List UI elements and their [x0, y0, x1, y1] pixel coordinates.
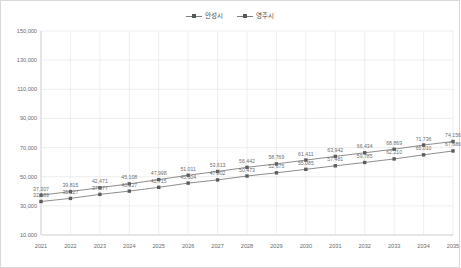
data-point-label: 37,877 — [92, 185, 108, 191]
series-marker — [245, 174, 248, 177]
data-point-label: 55,085 — [298, 160, 314, 166]
data-point-label: 45,604 — [180, 174, 196, 180]
data-point-label: 47,998 — [151, 170, 167, 176]
data-point-label: 61,411 — [298, 151, 314, 157]
series-marker — [392, 157, 395, 160]
legend-label: 안성시 — [205, 13, 223, 20]
data-point-label: 51,011 — [180, 166, 196, 172]
series-marker — [157, 186, 160, 189]
data-point-label: 67,686 — [445, 141, 461, 147]
series-marker — [363, 161, 366, 164]
y-axis-tick-label: 10,000 — [20, 232, 37, 238]
data-point-label: 74,156 — [445, 132, 461, 138]
series-marker — [69, 197, 72, 200]
data-point-label: 40,127 — [121, 182, 137, 188]
data-point-label: 65,010 — [416, 145, 432, 151]
x-axis-tick-label: 2034 — [417, 243, 429, 249]
data-point-label: 63,942 — [327, 147, 343, 153]
data-point-label: 58,769 — [268, 154, 284, 160]
x-axis-tick-label: 2033 — [388, 243, 400, 249]
data-point-label: 56,442 — [239, 158, 255, 164]
series-marker — [304, 168, 307, 171]
x-axis-tick-label: 2032 — [358, 243, 370, 249]
x-axis-tick-label: 2025 — [152, 243, 164, 249]
y-axis-tick-label: 50,000 — [20, 174, 37, 180]
series-marker — [98, 193, 101, 196]
x-axis-tick-label: 2031 — [329, 243, 341, 249]
legend-marker-icon — [237, 13, 253, 20]
y-axis-tick-label: 30,000 — [20, 203, 37, 209]
y-axis-ticks: 150,000130,000110,00090,00070,00050,0003… — [17, 28, 37, 238]
data-point-label: 45,108 — [121, 174, 137, 180]
y-axis-tick-label: 70,000 — [20, 145, 37, 151]
data-point-label: 32,983 — [33, 192, 49, 198]
data-point-label: 68,869 — [386, 140, 402, 146]
x-axis-tick-label: 2024 — [123, 243, 135, 249]
series-marker — [216, 178, 219, 181]
data-point-label: 35,127 — [62, 189, 78, 195]
series-marker — [275, 171, 278, 174]
data-point-label: 37,307 — [33, 186, 49, 192]
data-point-label: 42,471 — [92, 178, 108, 184]
data-point-label: 47,802 — [210, 170, 226, 176]
series-marker — [334, 164, 337, 167]
data-point-label: 53,613 — [210, 162, 226, 168]
data-point-label: 59,785 — [357, 153, 373, 159]
legend-entry-anseong[interactable]: 안성시 — [186, 13, 223, 20]
data-point-label: 57,481 — [327, 156, 343, 162]
x-axis-tick-label: 2028 — [241, 243, 253, 249]
data-point-label: 62,210 — [386, 149, 402, 155]
chart-canvas: 150,000130,000110,00090,00070,00050,0003… — [1, 23, 461, 268]
series-marker — [186, 181, 189, 184]
x-axis-tick-label: 2022 — [64, 243, 76, 249]
y-axis-tick-label: 150,000 — [17, 28, 37, 34]
x-axis-tick-label: 2035 — [447, 243, 459, 249]
data-point-label: 71,736 — [416, 136, 432, 142]
chart-legend: 안성시 영주시 — [1, 9, 459, 23]
x-axis-tick-label: 2029 — [270, 243, 282, 249]
legend-label: 영주시 — [256, 13, 274, 20]
data-point-label: 66,434 — [357, 143, 373, 149]
series-marker — [451, 149, 454, 152]
grid-lines — [41, 31, 453, 235]
x-axis-tick-label: 2027 — [211, 243, 223, 249]
y-axis-tick-label: 130,000 — [17, 57, 37, 63]
legend-entry-yeongju[interactable]: 영주시 — [237, 13, 274, 20]
plot-area: 150,000130,000110,00090,00070,00050,0003… — [1, 23, 459, 267]
x-axis-tick-label: 2021 — [35, 243, 47, 249]
y-axis-tick-label: 110,000 — [17, 86, 37, 92]
data-point-label: 42,715 — [151, 178, 167, 184]
data-point-label: 39,815 — [62, 182, 78, 188]
data-point-label: 50,473 — [239, 167, 255, 173]
x-axis-tick-label: 2026 — [182, 243, 194, 249]
series-marker — [422, 153, 425, 156]
x-axis-ticks: 2021202220232024202520262027202820292030… — [35, 243, 459, 249]
x-axis-tick-label: 2030 — [300, 243, 312, 249]
x-axis-tick-label: 2023 — [94, 243, 106, 249]
series-marker — [128, 189, 131, 192]
series-marker — [39, 200, 42, 203]
data-point-label: 52,675 — [268, 163, 284, 169]
y-axis-tick-label: 90,000 — [20, 115, 37, 121]
legend-marker-icon — [186, 13, 202, 20]
